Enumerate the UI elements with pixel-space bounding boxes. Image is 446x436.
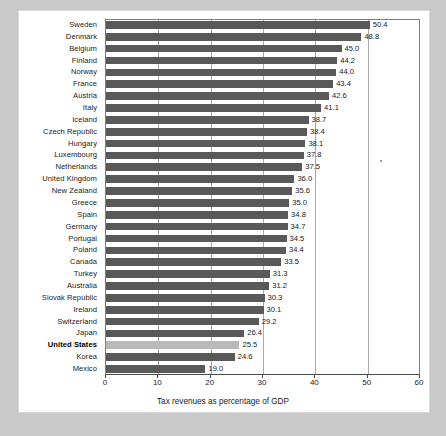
bar-track: 38.4 [106,126,420,138]
bar-value-label: 38.7 [312,116,327,124]
bar-track: 43.4 [106,78,420,90]
category-label: Mexico [73,365,97,373]
bar-track: 38.1 [106,138,420,150]
bar-row: Japan26.4 [0,328,446,340]
x-tick-label: 50 [362,379,371,387]
bar-value-label: 31.2 [272,282,287,290]
bar-value-label: 30.3 [268,294,283,302]
category-label: Spain [77,211,97,219]
bar [106,128,307,136]
bar-value-label: 38.1 [308,140,323,148]
bar [106,116,309,124]
bar [106,45,342,53]
bar [106,270,270,278]
bar-value-label: 45.0 [345,45,360,53]
bar-track: 41.1 [106,102,420,114]
bar-row: Belgium45.0 [0,43,446,55]
bar-value-label: 19.0 [208,365,223,373]
x-tick-label: 30 [258,379,267,387]
bar-value-label: 37.5 [305,164,320,172]
bar [106,235,287,243]
bar [106,21,370,29]
bar [106,80,333,88]
bar [106,330,244,338]
bar-row: Austria42.6 [0,90,446,102]
bar-value-label: 26.4 [247,330,262,338]
bar-track: 44.0 [106,66,420,78]
bar [106,140,305,148]
category-label: France [73,80,97,88]
bar [106,69,336,77]
category-label: Luxembourg [54,152,97,160]
bar [106,92,329,100]
category-label: New Zealand [52,187,97,195]
x-tick-label: 10 [153,379,162,387]
bar-value-label: 44.2 [340,57,355,65]
bar-track: 33.5 [106,256,420,268]
bar-track: 36.0 [106,173,420,185]
bar-row: Switzerland29.2 [0,316,446,328]
bar-row: France43.4 [0,78,446,90]
bar-track: 37.8 [106,150,420,162]
bar-row: Turkey31.3 [0,268,446,280]
bar-track: 35.0 [106,197,420,209]
bar-track: 29.2 [106,316,420,328]
x-axis: 0102030405060 [105,375,420,393]
bar-row: Greece35.0 [0,197,446,209]
bar-track: 34.5 [106,233,420,245]
bar-value-label: 50.4 [373,21,388,29]
bar-value-label: 41.1 [324,104,339,112]
category-label: Czech Republic [43,128,97,136]
bar-track: 35.6 [106,185,420,197]
bar-track: 34.7 [106,221,420,233]
bar-track: 42.6 [106,90,420,102]
category-label: Greece [72,199,97,207]
bar-row: Finland44.2 [0,55,446,67]
bar-value-label: 37.8 [307,152,322,160]
bar-row: Germany34.7 [0,221,446,233]
tax-revenue-bar-chart: Sweden50.4Denmark48.8Belgium45.0Finland4… [0,0,446,436]
bar [106,199,289,207]
category-label: Slovak Republic [42,294,97,302]
category-label: Austria [73,92,97,100]
bar-value-label: 30.1 [267,306,282,314]
bar [106,33,361,41]
category-label: United States [48,342,97,350]
category-label: Italy [83,104,97,112]
bar [106,341,239,349]
bar-row: New Zealand35.6 [0,185,446,197]
bar-value-label: 25.5 [242,342,257,350]
bar-row: Australia31.2 [0,280,446,292]
bar [106,318,259,326]
bar-value-label: 24.6 [238,353,253,361]
bar-track: 44.2 [106,55,420,67]
bar [106,365,205,373]
bar-value-label: 34.5 [290,235,305,243]
bar-row: Netherlands37.5 [0,161,446,173]
bar-value-label: 36.0 [297,175,312,183]
bar-row: Ireland30.1 [0,304,446,316]
bar-value-label: 33.5 [284,258,299,266]
bar-value-label: 48.8 [364,33,379,41]
x-tick-label: 40 [310,379,319,387]
category-label: Finland [72,57,97,65]
bar-value-label: 42.6 [332,92,347,100]
bar-track: 50.4 [106,19,420,31]
bar-value-label: 44.0 [339,69,354,77]
category-label: Poland [73,247,97,255]
bar-track: 26.4 [106,328,420,340]
bar [106,211,288,219]
category-label: Turkey [74,270,97,278]
category-label: Portugal [68,235,97,243]
category-label: Hungary [68,140,97,148]
bar-row: Czech Republic38.4 [0,126,446,138]
bar-rows: Sweden50.4Denmark48.8Belgium45.0Finland4… [0,19,446,375]
bar-row: Poland34.4 [0,244,446,256]
bar-track: 34.4 [106,244,420,256]
bar-row: Iceland38.7 [0,114,446,126]
bar-row: Slovak Republic30.3 [0,292,446,304]
bar-value-label: 29.2 [262,318,277,326]
category-label: Iceland [72,116,97,124]
bar-row: Denmark48.8 [0,31,446,43]
bar-track: 31.2 [106,280,420,292]
